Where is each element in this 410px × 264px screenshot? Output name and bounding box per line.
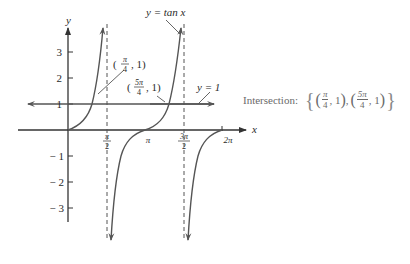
point1-y: , 1: [329, 94, 340, 106]
x-tick-2pi: 2π: [223, 135, 233, 145]
svg-text:π: π: [123, 55, 128, 64]
x-tick-3pi-over-2: 3π 2: [178, 132, 190, 151]
tan-branch-2: [145, 28, 181, 130]
x-tick-pi-over-2: π 2: [103, 132, 111, 151]
open-paren-1: (: [316, 92, 321, 108]
y-axis-label: y: [65, 14, 71, 26]
tan-graph: y x 3 2 1 − 1 − 2 − 3 π 2 π 3π 2 2π y = …: [0, 0, 410, 264]
svg-text:3π: 3π: [179, 132, 189, 141]
fraction-pi-over-4: π 4: [322, 89, 329, 110]
tan-branch-2-down: [111, 130, 145, 240]
y-tick-neg1: − 1: [50, 150, 64, 162]
x-tick-pi: π: [146, 135, 151, 145]
leader-y1: [198, 92, 210, 104]
intersection-result: Intersection: { ( π 4 , 1 ) , ( 5π 4 , 1…: [243, 89, 397, 110]
tan-label: y = tan x: [145, 6, 186, 18]
svg-text:4: 4: [123, 65, 127, 74]
y-tick-neg2: − 2: [50, 176, 64, 188]
y-tick-neg3: − 3: [50, 202, 65, 214]
fraction-5pi-over-4: 5π 4: [357, 89, 368, 110]
y-tick-3: 3: [57, 46, 63, 58]
open-brace: {: [305, 90, 315, 110]
leader-pt1: [98, 70, 124, 94]
svg-text:π: π: [105, 132, 110, 141]
leader-pt2: [157, 96, 165, 102]
svg-text:2: 2: [182, 142, 186, 151]
separator: ,: [346, 94, 349, 106]
point-label-5pi-over-4: ( 5π 4 , 1): [127, 78, 161, 97]
y-equals-1-label: y = 1: [196, 81, 220, 93]
close-brace: }: [386, 90, 396, 110]
svg-text:(: (: [127, 81, 131, 94]
svg-text:2: 2: [105, 142, 109, 151]
tan-branch-1: [68, 28, 103, 130]
intersection-label: Intersection:: [243, 94, 298, 106]
point-label-pi-over-4: ( π 4 , 1): [113, 55, 146, 74]
open-paren-2: (: [351, 92, 356, 108]
svg-text:5π: 5π: [135, 78, 144, 87]
y-tick-2: 2: [57, 72, 63, 84]
x-axis-label: x: [251, 123, 257, 135]
leader-tan: [166, 20, 180, 34]
y-tick-1: 1: [57, 98, 63, 110]
tan-branch-3-down: [188, 130, 222, 240]
svg-text:, 1): , 1): [146, 81, 161, 94]
svg-text:4: 4: [137, 88, 141, 97]
svg-text:(: (: [113, 58, 117, 71]
close-paren-2: ): [380, 92, 385, 108]
svg-text:, 1): , 1): [131, 58, 146, 71]
point2-y: , 1: [369, 94, 380, 106]
